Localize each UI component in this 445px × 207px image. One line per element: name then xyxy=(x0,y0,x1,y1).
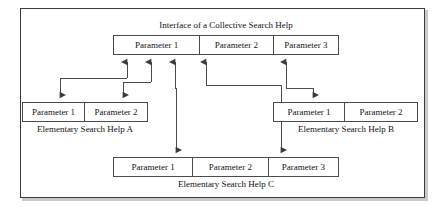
elementary-b-parameter-1[interactable]: Parameter 1 xyxy=(274,103,345,121)
elementary-search-help-c-box[interactable]: Parameter 1 Parameter 2 Parameter 3 xyxy=(113,157,339,177)
elementary-c-parameter-2[interactable]: Parameter 2 xyxy=(193,158,268,176)
elementary-b-parameter-2[interactable]: Parameter 2 xyxy=(345,103,417,121)
diagram-title: Interface of a Collective Search Help xyxy=(113,20,339,30)
collective-parameter-1[interactable]: Parameter 1 xyxy=(114,36,200,54)
collective-search-help-box[interactable]: Parameter 1 Parameter 2 Parameter 3 xyxy=(113,35,339,55)
elementary-c-parameter-3[interactable]: Parameter 3 xyxy=(269,158,338,176)
elementary-search-help-b-box[interactable]: Parameter 1 Parameter 2 xyxy=(273,102,418,122)
elementary-a-parameter-2[interactable]: Parameter 2 xyxy=(85,103,147,121)
diagram-canvas: Interface of a Collective Search Help Pa… xyxy=(0,0,445,207)
collective-parameter-3[interactable]: Parameter 3 xyxy=(274,36,338,54)
elementary-a-caption: Elementary Search Help A xyxy=(10,124,160,134)
collective-parameter-2[interactable]: Parameter 2 xyxy=(200,36,273,54)
elementary-c-parameter-1[interactable]: Parameter 1 xyxy=(114,158,193,176)
elementary-c-caption: Elementary Search Help C xyxy=(113,179,339,189)
elementary-a-parameter-1[interactable]: Parameter 1 xyxy=(23,103,85,121)
elementary-search-help-a-box[interactable]: Parameter 1 Parameter 2 xyxy=(22,102,148,122)
elementary-b-caption: Elementary Search Help B xyxy=(268,124,424,134)
